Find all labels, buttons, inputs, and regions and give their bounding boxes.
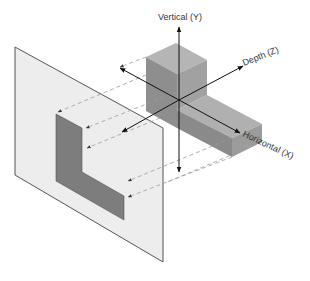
depth-axis-label: Depth (Z) — [241, 44, 280, 68]
projection-diagram: Vertical (Y) Depth (Z) Horizontal (X) — [0, 0, 310, 281]
vertical-axis-label: Vertical (Y) — [158, 12, 202, 22]
